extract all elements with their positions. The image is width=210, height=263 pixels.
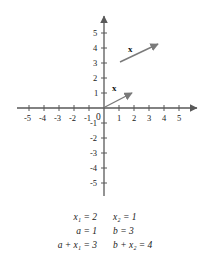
x-tick-label--4: -4 [39, 114, 46, 123]
caption-row: a + x₁ = 3 b + x₂ = 4 [0, 238, 210, 252]
y-tick-label-5: 5 [93, 29, 97, 38]
equation-x1: x₁ = 2 [25, 210, 103, 224]
equation-b-plus-x2: b + x₂ = 4 [103, 238, 185, 252]
y-tick-label--2: -2 [90, 134, 97, 143]
y-tick-label-2: 2 [93, 74, 97, 83]
equation-b: b = 3 [103, 224, 185, 238]
x-tick-label-2: 2 [132, 114, 136, 123]
x-tick-label-4: 4 [162, 114, 166, 123]
vector-figure: -5 -4 -3 -2 -1 0 1 2 3 4 5 5 4 3 2 1 -1 … [0, 0, 210, 263]
caption-row: a = 1 b = 3 [0, 224, 210, 238]
y-tick-label--5: -5 [90, 179, 97, 188]
y-tick-label--3: -3 [90, 149, 97, 158]
equation-a: a = 1 [25, 224, 103, 238]
equation-x2: x₂ = 1 [103, 210, 185, 224]
x-tick-label-1: 1 [117, 114, 121, 123]
equation-a-plus-x1: a + x₁ = 3 [25, 238, 103, 252]
x-tick-label--2: -2 [69, 114, 76, 123]
x-tick-label-3: 3 [147, 114, 151, 123]
y-tick-label-1: 1 [94, 89, 98, 98]
x-tick-label--3: -3 [54, 114, 61, 123]
caption-block: x₁ = 2 x₂ = 1 a = 1 b = 3 a + x₁ = 3 b +… [0, 210, 210, 263]
vector-label-upper: x [128, 45, 133, 54]
y-tick-label--1: -1 [90, 119, 97, 128]
x-tick-label-5: 5 [177, 114, 181, 123]
caption-row: x₁ = 2 x₂ = 1 [0, 210, 210, 224]
vector-x-translated [120, 44, 158, 62]
x-tick-label--5: -5 [24, 114, 31, 123]
y-tick-label--4: -4 [90, 164, 97, 173]
coordinate-plot [0, 0, 210, 210]
vector-label-lower: x [112, 84, 117, 93]
vector-x-origin [105, 93, 132, 107]
y-tick-label-4: 4 [93, 44, 97, 53]
y-tick-label-3: 3 [93, 59, 97, 68]
